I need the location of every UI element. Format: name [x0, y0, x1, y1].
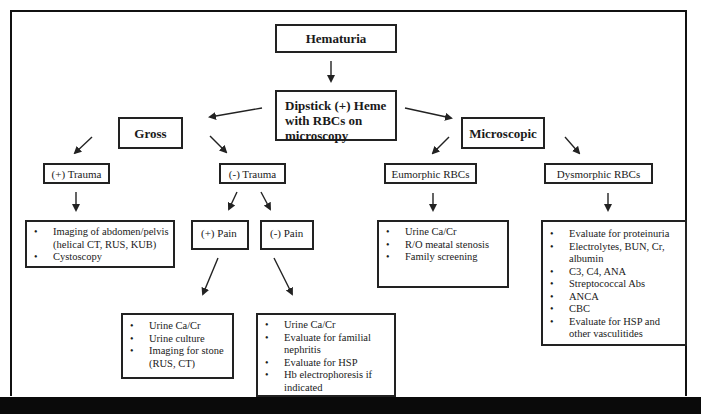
gross-node: Gross [118, 117, 183, 149]
action-item: Imaging for stone (RUS, CT) [123, 345, 228, 370]
action-item: Electrolytes, BUN, Cr, albumin [543, 241, 681, 266]
dysmorphic-actions: Evaluate for proteinuria Electrolytes, B… [541, 220, 687, 346]
negative-pain-node: (-) Pain [260, 220, 314, 250]
action-item: R/O meatal stenosis [379, 239, 503, 252]
dysmorphic-label: Dysmorphic RBCs [557, 168, 640, 180]
positive-trauma-label: (+) Trauma [52, 168, 102, 180]
hematuria-node: Hematuria [275, 24, 397, 53]
action-item: Hb electrophoresis if indicated [258, 369, 390, 394]
bottom-bar [0, 397, 701, 414]
dipstick-label: Dipstick (+) Heme with RBCs on microscop… [285, 98, 386, 143]
action-item: ANCA [543, 291, 681, 304]
action-item: Imaging of abdomen/pelvis (helical CT, R… [27, 226, 169, 251]
action-item: Family screening [379, 251, 503, 264]
action-item: Urine Ca/Cr [258, 319, 390, 332]
positive-pain-actions: Urine Ca/Cr Urine culture Imaging for st… [121, 313, 234, 379]
negative-pain-label: (-) Pain [270, 227, 303, 239]
gross-label: Gross [134, 126, 166, 141]
action-item: C3, C4, ANA [543, 266, 681, 279]
action-item: Evaluate for HSP [258, 357, 390, 370]
positive-trauma-actions: Imaging of abdomen/pelvis (helical CT, R… [25, 220, 175, 268]
positive-trauma-node: (+) Trauma [43, 163, 110, 184]
action-item: Evaluate for HSP and other vasculitides [543, 316, 681, 341]
action-item: Urine Ca/Cr [123, 320, 228, 333]
dipstick-node: Dipstick (+) Heme with RBCs on microscop… [275, 90, 397, 141]
positive-pain-label: (+) Pain [201, 227, 237, 239]
eumorphic-actions: Urine Ca/Cr R/O meatal stenosis Family s… [377, 220, 509, 288]
microscopic-label: Microscopic [469, 126, 537, 141]
negative-pain-actions: Urine Ca/Cr Evaluate for familial nephri… [256, 313, 396, 397]
positive-pain-node: (+) Pain [191, 220, 249, 250]
action-item: CBC [543, 303, 681, 316]
microscopic-node: Microscopic [461, 117, 545, 149]
action-item: Streptococcal Abs [543, 278, 681, 291]
action-item: Urine Ca/Cr [379, 226, 503, 239]
negative-trauma-node: (-) Trauma [219, 163, 286, 184]
action-item: Urine culture [123, 333, 228, 346]
hematuria-label: Hematuria [306, 31, 367, 46]
eumorphic-label: Eumorphic RBCs [392, 168, 470, 180]
eumorphic-node: Eumorphic RBCs [384, 163, 477, 184]
dysmorphic-node: Dysmorphic RBCs [544, 163, 653, 184]
negative-trauma-label: (-) Trauma [229, 168, 276, 180]
action-item: Cystoscopy [27, 251, 169, 264]
action-item: Evaluate for proteinuria [543, 228, 681, 241]
action-item: Evaluate for familial nephritis [258, 332, 390, 357]
